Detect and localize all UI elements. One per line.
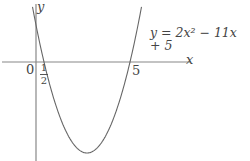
x-axis-label: x — [186, 53, 193, 66]
origin-label: 0 — [26, 63, 34, 76]
five-label: 5 — [132, 64, 140, 77]
equation-label: y = 2x² − 11x + 5 — [150, 27, 250, 52]
half-label: 1 2 — [40, 63, 48, 86]
graph: y x 0 1 2 5 y = 2x² − 11x + 5 — [0, 0, 250, 161]
parabola-curve — [33, 7, 142, 153]
half-numerator: 1 — [40, 63, 48, 73]
y-axis-label: y — [37, 0, 44, 13]
half-denominator: 2 — [40, 76, 48, 86]
